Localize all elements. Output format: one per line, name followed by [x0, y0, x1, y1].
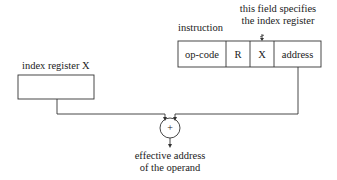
arrowhead-output [168, 144, 172, 148]
index-register-box [18, 75, 94, 99]
field-r: R [226, 41, 250, 67]
note-line-2: the index register [230, 15, 326, 26]
instruction-label: instruction [178, 22, 223, 33]
field-x: X [250, 41, 274, 67]
note-line-1: this field specifies [230, 3, 326, 14]
field-op-code: op-code [178, 41, 226, 67]
output-line-1: effective address [120, 150, 220, 161]
output-line-2: of the operand [120, 162, 220, 173]
plus-icon: + [160, 122, 180, 133]
field-address: address [274, 41, 321, 67]
index-register-label: index register X [22, 60, 90, 71]
